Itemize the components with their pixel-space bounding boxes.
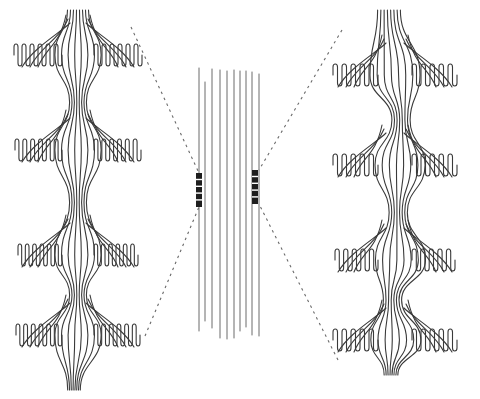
fibre-strand (75, 10, 81, 390)
magnified-filament-section (196, 68, 259, 339)
fibre-strand (73, 10, 77, 390)
connector-strand (404, 43, 452, 87)
projection-line (145, 207, 199, 336)
connector-strand (338, 43, 386, 87)
band-striation (196, 192, 202, 193)
band-striation (252, 189, 258, 190)
connector-strand (404, 133, 452, 177)
connector-strand (338, 133, 386, 177)
fiber-bundle-diagram (0, 0, 480, 399)
fibre-strand (62, 10, 73, 390)
band-striation (196, 179, 202, 180)
projection-dashed-lines (131, 27, 342, 360)
connector-strand (338, 228, 386, 272)
band-striation (252, 196, 258, 197)
left-fiber-bundle (14, 10, 142, 390)
band-striation (196, 199, 202, 200)
dark-band-region (196, 173, 202, 207)
band-striation (196, 186, 202, 187)
band-striation (252, 183, 258, 184)
projection-line (259, 204, 338, 360)
fibre-strand (384, 10, 397, 375)
right-distorted-bundle (333, 10, 457, 375)
connector-strand (404, 308, 452, 352)
dark-band-region (252, 170, 258, 204)
fibre-strand (55, 10, 70, 390)
band-striation (252, 176, 258, 177)
projection-line (259, 30, 342, 170)
